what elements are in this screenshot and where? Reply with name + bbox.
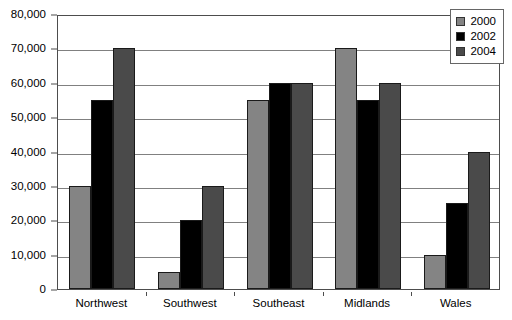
- x-tick-label: Northwest: [75, 298, 127, 310]
- bar: [269, 83, 291, 289]
- legend-item[interactable]: 2004: [456, 44, 496, 59]
- bar: [69, 186, 91, 289]
- y-tick-label: 20,000: [11, 216, 46, 228]
- legend-swatch-icon: [456, 32, 465, 41]
- bar: [446, 203, 468, 289]
- legend-label: 2002: [470, 31, 496, 43]
- legend-swatch-icon: [456, 47, 465, 56]
- y-tick-label: 10,000: [11, 250, 46, 262]
- bar: [468, 152, 490, 290]
- bar: [180, 220, 202, 289]
- bar: [357, 100, 379, 289]
- x-tick-label: Wales: [440, 298, 472, 310]
- bar: [424, 255, 446, 289]
- legend-label: 2004: [470, 46, 496, 58]
- y-tick-label: 0: [40, 284, 46, 296]
- legend-swatch-icon: [456, 17, 465, 26]
- x-tick-mark: [411, 292, 412, 296]
- x-tick-label: Southeast: [253, 298, 305, 310]
- bar: [379, 83, 401, 289]
- y-tick-label: 80,000: [11, 9, 46, 21]
- bar: [247, 100, 269, 289]
- y-axis: 010,00020,00030,00040,00050,00060,00070,…: [0, 0, 57, 320]
- bar: [158, 272, 180, 289]
- bar: [113, 48, 135, 289]
- y-tick-label: 30,000: [11, 181, 46, 193]
- y-tick-label: 60,000: [11, 78, 46, 90]
- legend-item[interactable]: 2002: [456, 29, 496, 44]
- x-tick-label: Southwest: [163, 298, 217, 310]
- x-tick-mark: [323, 292, 324, 296]
- x-tick-mark: [146, 292, 147, 296]
- bar: [335, 48, 357, 289]
- x-tick-mark: [234, 292, 235, 296]
- x-tick-label: Midlands: [344, 298, 390, 310]
- bar: [202, 186, 224, 289]
- legend-label: 2000: [470, 16, 496, 28]
- x-axis: NorthwestSouthwestSoutheastMidlandsWales: [57, 292, 500, 320]
- y-tick-label: 40,000: [11, 147, 46, 159]
- bar: [291, 83, 313, 289]
- y-tick-label: 50,000: [11, 112, 46, 124]
- y-tick-label: 70,000: [11, 44, 46, 56]
- plot-area: [57, 15, 500, 290]
- bar: [91, 100, 113, 289]
- legend-item[interactable]: 2000: [456, 14, 496, 29]
- legend: 200020022004: [450, 9, 504, 64]
- bar-chart: 010,00020,00030,00040,00050,00060,00070,…: [0, 0, 512, 320]
